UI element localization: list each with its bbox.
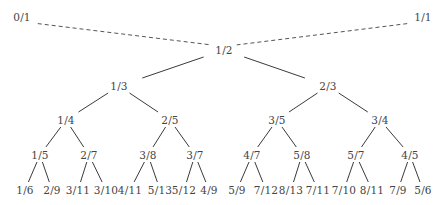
tree-node: 5/12 (172, 184, 196, 196)
tree-node: 1/6 (16, 184, 34, 196)
edge-n1_3-n1_4 (79, 93, 109, 112)
edge-n3_8-n4_11 (134, 162, 144, 182)
edge-n1_3-n2_5 (130, 93, 159, 112)
tree-node: 4/7 (243, 149, 261, 161)
tree-node: 3/5 (268, 114, 286, 126)
edge-n1_2-n1_3 (142, 57, 203, 78)
edge-n2_3-n3_4 (339, 93, 368, 112)
tree-node: 4/11 (118, 184, 142, 196)
tree-edges (0, 0, 448, 205)
edge-n1_5-n1_6 (28, 162, 37, 182)
tree-node: 1/2 (215, 44, 233, 56)
tree-node: 7/9 (389, 184, 407, 196)
edge-n5_7-n7_10 (347, 162, 354, 182)
tree-node: 0/1 (13, 11, 31, 23)
edge-n1_5-n2_9 (42, 162, 49, 182)
tree-node: 3/4 (371, 114, 389, 126)
tree-node: 5/9 (228, 184, 246, 196)
tree-node: 7/11 (306, 184, 330, 196)
tree-node: 1/4 (57, 114, 75, 126)
tree-node: 8/13 (279, 184, 303, 196)
tree-node: 2/9 (43, 184, 61, 196)
edge-n3_4-n5_7 (362, 127, 376, 147)
edge-n3_8-n5_13 (150, 162, 157, 182)
edge-n4_5-n5_6 (413, 162, 420, 182)
tree-node: 5/7 (347, 149, 365, 161)
tree-node: 8/11 (360, 184, 384, 196)
edge-n4_7-n5_9 (240, 162, 249, 182)
edge-n1_4-n2_7 (71, 127, 84, 147)
edge-n5_7-n8_11 (359, 162, 368, 182)
edge-n2_7-n3_10 (92, 162, 102, 182)
tree-node: 3/10 (94, 184, 118, 196)
edge-n2_3-n3_5 (289, 93, 318, 112)
edge-n4_5-n7_9 (401, 162, 408, 182)
edge-n2_5-n3_7 (175, 127, 189, 147)
tree-node: 2/7 (80, 149, 98, 161)
edge-n1_1-n1_2 (237, 24, 407, 45)
edge-n1_2-n2_3 (244, 57, 305, 78)
tree-node: 1/5 (31, 149, 49, 161)
tree-node: 7/10 (332, 184, 356, 196)
tree-node: 1/1 (414, 11, 432, 23)
tree-node: 1/3 (110, 80, 128, 92)
edge-n3_4-n4_5 (386, 127, 403, 147)
tree-node: 5/13 (148, 184, 172, 196)
edge-n3_7-n5_12 (187, 162, 193, 182)
edge-n1_4-n1_5 (46, 127, 61, 147)
tree-node: 2/5 (161, 114, 179, 126)
edge-n0_1-n1_2 (38, 24, 211, 45)
edge-n5_8-n8_13 (294, 162, 300, 182)
tree-node: 7/12 (254, 184, 278, 196)
tree-node: 3/7 (186, 149, 204, 161)
edge-n3_5-n5_8 (282, 127, 296, 147)
tree-node: 4/9 (200, 184, 218, 196)
edge-n2_5-n3_8 (153, 127, 166, 147)
edge-n2_7-n3_11 (81, 162, 87, 182)
tree-node: 5/8 (293, 149, 311, 161)
edge-n5_8-n7_11 (305, 162, 314, 182)
edge-n3_5-n4_7 (258, 127, 272, 147)
tree-node: 3/8 (139, 149, 157, 161)
edge-n3_7-n4_9 (198, 162, 206, 182)
tree-node: 3/11 (66, 184, 90, 196)
edge-n4_7-n7_12 (255, 162, 263, 182)
tree-node: 4/5 (401, 149, 419, 161)
tree-node: 5/6 (414, 184, 432, 196)
tree-node: 2/3 (319, 80, 337, 92)
